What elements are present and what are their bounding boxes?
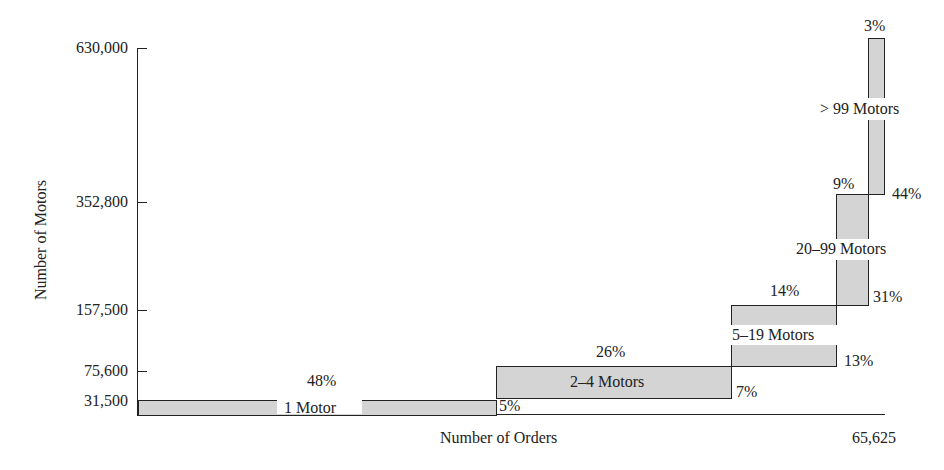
orders-pct-label: 3% — [864, 18, 885, 34]
x-total-label: 65,625 — [852, 430, 896, 446]
x-axis-label: Number of Orders — [440, 430, 557, 446]
y-tick-75600 — [137, 371, 147, 372]
y-tick-label: 75,600 — [8, 363, 128, 379]
y-tick-label: 630,000 — [8, 40, 128, 56]
orders-pct-label: 9% — [833, 176, 854, 192]
y-axis-line — [137, 48, 138, 416]
category-label: > 99 Motors — [820, 101, 899, 117]
orders-pct-label: 48% — [307, 373, 336, 389]
orders-pct-label: 13% — [844, 353, 873, 369]
y-tick-630000 — [137, 48, 147, 49]
motors-pct-label: 5% — [499, 398, 520, 414]
y-tick-157500 — [137, 310, 147, 311]
motors-pct-label: 31% — [873, 289, 902, 305]
motors-pct-label: 44% — [892, 186, 921, 202]
category-label: 1 Motor — [284, 400, 336, 416]
category-label: 20–99 Motors — [796, 241, 886, 257]
motors-pct-label: 7% — [736, 384, 757, 400]
y-tick-352800 — [137, 202, 147, 203]
category-label: 2–4 Motors — [570, 374, 644, 390]
y-tick-label: 157,500 — [8, 302, 128, 318]
y-axis-label: Number of Motors — [32, 180, 50, 300]
category-label: 5–19 Motors — [732, 327, 814, 343]
y-tick-label: 31,500 — [8, 393, 128, 409]
motors-pct-label: 14% — [770, 283, 799, 299]
orders-pct-label: 26% — [596, 344, 625, 360]
y-tick-label: 352,800 — [8, 194, 128, 210]
